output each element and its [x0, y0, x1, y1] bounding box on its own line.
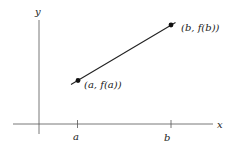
y-axis-label: y	[34, 6, 41, 17]
secant-line-diagram: y x a b (a, f(a)) (b, f(b))	[0, 0, 230, 153]
x-axis-label: x	[217, 119, 223, 130]
point-a	[76, 78, 81, 83]
tick-label-b: b	[164, 132, 170, 143]
tick-label-a: a	[73, 131, 79, 142]
point-b	[169, 23, 174, 28]
secant-line	[71, 23, 176, 85]
point-label-b: (b, f(b))	[181, 22, 220, 33]
point-label-a: (a, f(a))	[84, 79, 122, 90]
